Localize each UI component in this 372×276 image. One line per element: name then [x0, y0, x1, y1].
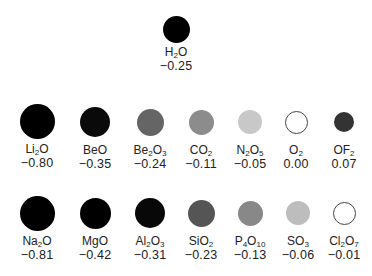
charge-circle-o2	[285, 111, 308, 134]
charge-circle-be2o3	[137, 109, 164, 136]
charge-circle-co2	[189, 110, 214, 135]
charge-value: −0.81	[7, 249, 67, 262]
formula-label: Cl2O7	[314, 235, 372, 248]
formula-label: OF2	[314, 144, 372, 157]
formula-label: Li2O	[7, 143, 67, 156]
charge-circle-so3	[286, 201, 310, 225]
formula-label: Na2O	[7, 235, 67, 248]
charge-circle-n2o5	[238, 110, 262, 134]
formula-label: H2O	[146, 46, 206, 59]
charge-value: −0.01	[314, 249, 372, 262]
charge-value: 0.07	[314, 158, 372, 171]
charge-circle-li2o	[20, 104, 55, 139]
charge-value: −0.25	[146, 60, 206, 73]
charge-circle-of2	[334, 112, 354, 132]
charge-circle-p4o10	[238, 201, 263, 226]
charge-value: −0.80	[7, 157, 67, 170]
charge-value: −0.42	[65, 249, 125, 262]
charge-circle-cl2o7	[333, 202, 356, 225]
charge-circle-mgo	[80, 198, 111, 229]
charge-circle-na2o	[20, 196, 55, 231]
charge-circle-h2o	[163, 16, 190, 43]
charge-value: −0.35	[65, 158, 125, 171]
charge-circle-sio2	[188, 200, 215, 227]
charge-circle-beo	[80, 107, 110, 137]
charge-circle-al2o3	[135, 198, 165, 228]
formula-label: MgO	[65, 235, 125, 248]
formula-label: BeO	[65, 144, 125, 157]
